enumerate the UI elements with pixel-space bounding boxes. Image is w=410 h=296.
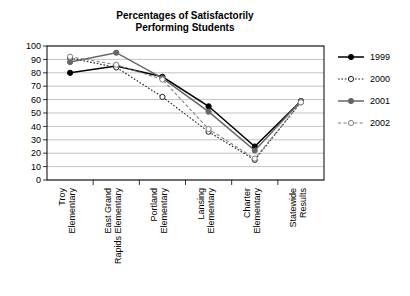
x-tick-label: Statewide [288,188,298,228]
data-point-2002-3 [206,126,211,131]
data-point-2001-4 [252,148,257,153]
data-point-2001-1 [114,50,119,55]
data-point-2002-2 [160,77,165,82]
x-tick-label: Charter [242,188,252,218]
x-tick-label: Elementary [206,188,216,234]
y-tick-label: 70 [31,81,41,91]
data-point-2002-4 [252,156,257,161]
x-tick-label: Rapids Elementary [113,188,123,265]
x-axis-tick-marks [93,180,278,185]
y-tick-label: 50 [31,108,41,118]
x-tick-label: Troy [57,188,67,206]
x-tick-label: Results [298,188,308,219]
x-tick-label: Elementary [252,188,262,234]
y-axis-tick-labels: 0102030405060708090100 [26,41,41,185]
y-tick-label: 80 [31,68,41,78]
legend-marker-2000 [348,76,353,81]
x-tick-label: Portland [149,188,159,222]
series-line-1999 [70,66,301,146]
legend-marker-2002 [348,120,353,125]
data-point-2001-3 [206,109,211,114]
data-point-1999-0 [67,70,72,75]
data-point-2002-0 [67,54,72,59]
legend-label-2000[interactable]: 2000 [370,74,390,84]
y-tick-label: 100 [26,41,41,51]
legend-label-1999[interactable]: 1999 [370,52,390,62]
x-tick-label: Elementary [67,188,77,234]
x-tick-label: East Grand [103,188,113,234]
y-tick-label: 20 [31,148,41,158]
y-tick-label: 10 [31,162,41,172]
data-point-2002-1 [114,62,119,67]
y-tick-label: 30 [31,135,41,145]
legend-marker-1999 [348,54,353,59]
x-tick-label: Lansing [196,188,206,220]
y-tick-label: 90 [31,55,41,65]
legend-marker-2001 [348,98,353,103]
grid-lines [43,46,324,180]
y-tick-label: 40 [31,122,41,132]
data-point-1999-3 [206,104,211,109]
series-line-2002 [70,57,301,159]
y-tick-label: 60 [31,95,41,105]
data-point-2000-2 [160,94,165,99]
chart-container: Percentages of Satisfactorily Performing… [0,0,410,296]
series-line-2000 [70,58,301,160]
legend-label-2002[interactable]: 2002 [370,118,390,128]
data-point-2001-0 [67,59,72,64]
legend: 1999200020012002 [338,52,390,128]
data-series-layer [67,50,303,162]
x-tick-label: Elementary [159,188,169,234]
legend-label-2001[interactable]: 2001 [370,96,390,106]
x-axis-tick-labels: TroyElementaryEast GrandRapids Elementar… [57,188,308,265]
data-point-2002-5 [298,100,303,105]
line-chart-plot: 0102030405060708090100 TroyElementaryEas… [0,0,410,296]
y-tick-label: 0 [36,175,41,185]
